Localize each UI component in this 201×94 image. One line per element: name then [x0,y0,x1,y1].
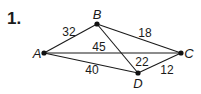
vertex-a-dot [41,50,46,55]
vertex-b-label: B [93,7,102,22]
vertex-d-label: D [133,76,142,91]
edge-weight-bd: 22 [135,55,149,69]
weighted-graph-diagram: 321845224012 ABCD [0,0,201,94]
edge-weight-ac: 45 [92,40,106,54]
edge-weight-dc: 12 [160,63,174,77]
edge-weight-ab: 32 [62,25,76,39]
vertex-d-dot [135,70,140,75]
vertex-c-dot [178,50,183,55]
edge-weight-ad: 40 [85,63,99,77]
vertex-c-label: C [184,46,194,61]
vertex-a-label: A [32,46,42,61]
vertex-b-dot [94,21,99,26]
edge-weight-bc: 18 [138,26,152,40]
